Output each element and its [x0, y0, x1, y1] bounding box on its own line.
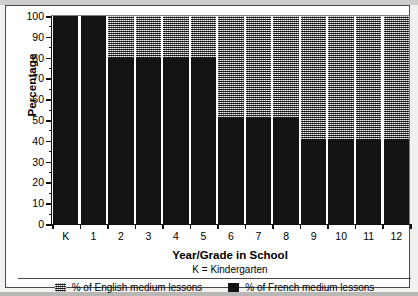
bar-column[interactable]: [163, 16, 188, 224]
y-tick-50: [46, 120, 52, 122]
bar-segment-french[interactable]: [53, 16, 78, 224]
bar-segment-english[interactable]: [356, 16, 381, 139]
bar-segment-english[interactable]: [191, 16, 216, 58]
x-tick: [410, 224, 412, 229]
x-tick: [245, 224, 247, 229]
chart-outer-border: Percentage 0102030405060708090100 K12345…: [5, 5, 410, 288]
y-minor-tick-5: [49, 214, 53, 215]
bar-segment-french[interactable]: [191, 58, 216, 224]
x-tick-label-11: 11: [363, 230, 374, 242]
x-tick-label-1: 1: [90, 230, 96, 242]
bar-segment-french[interactable]: [301, 139, 326, 224]
x-tick-label-6: 6: [228, 230, 234, 242]
bar-segment-english[interactable]: [384, 16, 409, 139]
bar-segment-english[interactable]: [108, 16, 133, 58]
y-minor-tick-55: [49, 110, 53, 111]
y-tick-30: [46, 162, 52, 164]
bar-column[interactable]: [246, 16, 271, 224]
bar-segment-french[interactable]: [356, 139, 381, 224]
bar-segment-english[interactable]: [246, 16, 271, 118]
y-tick-40: [46, 141, 52, 143]
x-tick-label-4: 4: [173, 230, 179, 242]
y-tick-label-70: 70: [32, 72, 44, 84]
bar-column[interactable]: [218, 16, 243, 224]
x-tick-label-3: 3: [145, 230, 151, 242]
x-tick-label-9: 9: [311, 230, 317, 242]
x-tick: [107, 224, 109, 229]
legend-item[interactable]: % of English medium lessons: [55, 282, 203, 293]
y-minor-tick-35: [49, 151, 53, 152]
y-minor-tick-45: [49, 130, 53, 131]
x-tick: [80, 224, 82, 229]
bar-column[interactable]: [53, 16, 78, 224]
solid-black-swatch-icon: [228, 283, 239, 292]
x-tick: [135, 224, 137, 229]
x-tick-label-10: 10: [335, 230, 347, 242]
x-tick: [355, 224, 357, 229]
y-minor-tick-25: [49, 172, 53, 173]
y-minor-tick-15: [49, 193, 53, 194]
legend-item[interactable]: % of French medium lessons: [228, 282, 374, 293]
bar-column[interactable]: [81, 16, 106, 224]
x-tick-label-12: 12: [390, 230, 402, 242]
x-tick: [217, 224, 219, 229]
bar-segment-french[interactable]: [108, 58, 133, 224]
bar-segment-english[interactable]: [328, 16, 353, 139]
bar-segment-english[interactable]: [218, 16, 243, 118]
x-tick: [52, 224, 54, 229]
y-tick-90: [46, 37, 52, 39]
bar-column[interactable]: [356, 16, 381, 224]
bar-segment-english[interactable]: [301, 16, 326, 139]
bar-segment-english[interactable]: [273, 16, 298, 118]
y-tick-20: [46, 182, 52, 184]
bar-segment-french[interactable]: [273, 118, 298, 224]
y-tick-60: [46, 99, 52, 101]
y-tick-label-60: 60: [32, 93, 44, 105]
chart-legend: % of English medium lessons% of French m…: [18, 278, 411, 294]
bar-column[interactable]: [301, 16, 326, 224]
bar-segment-french[interactable]: [218, 118, 243, 224]
y-minor-tick-65: [49, 89, 53, 90]
x-tick: [327, 224, 329, 229]
bar-column[interactable]: [328, 16, 353, 224]
x-tick-label-8: 8: [283, 230, 289, 242]
y-tick-label-20: 20: [32, 176, 44, 188]
plot-area: 0102030405060708090100 K123456789101112: [51, 16, 410, 225]
figure-root: Percentage 0102030405060708090100 K12345…: [0, 0, 418, 296]
legend-label: % of English medium lessons: [72, 282, 203, 293]
y-tick-label-90: 90: [32, 31, 44, 43]
y-tick-80: [46, 58, 52, 60]
bar-segment-french[interactable]: [384, 139, 409, 224]
bar-column[interactable]: [384, 16, 409, 224]
bar-column[interactable]: [191, 16, 216, 224]
x-tick-label-5: 5: [201, 230, 207, 242]
y-minor-tick-95: [49, 26, 53, 27]
bar-segment-french[interactable]: [246, 118, 271, 224]
x-tick: [190, 224, 192, 229]
x-axis-title: Year/Grade in School: [51, 249, 409, 261]
y-tick-label-40: 40: [32, 135, 44, 147]
kindergarten-footnote: K = Kindergarten: [51, 264, 409, 275]
y-minor-tick-75: [49, 68, 53, 69]
y-tick-10: [46, 203, 52, 205]
bar-segment-french[interactable]: [136, 58, 161, 224]
bar-segment-english[interactable]: [163, 16, 188, 58]
bar-segment-french[interactable]: [81, 16, 106, 224]
x-tick: [300, 224, 302, 229]
y-tick-label-30: 30: [32, 156, 44, 168]
bar-segment-french[interactable]: [328, 139, 353, 224]
x-tick: [382, 224, 384, 229]
y-tick-label-0: 0: [38, 218, 44, 230]
x-tick-label-2: 2: [118, 230, 124, 242]
x-tick: [162, 224, 164, 229]
checkered-swatch-icon: [55, 283, 66, 292]
y-tick-label-50: 50: [32, 114, 44, 126]
y-tick-label-80: 80: [32, 52, 44, 64]
y-tick-label-100: 100: [26, 10, 44, 22]
bar-segment-english[interactable]: [136, 16, 161, 58]
bar-segment-french[interactable]: [163, 58, 188, 224]
bar-column[interactable]: [273, 16, 298, 224]
bar-column[interactable]: [108, 16, 133, 224]
y-tick-100: [46, 16, 52, 18]
bar-column[interactable]: [136, 16, 161, 224]
